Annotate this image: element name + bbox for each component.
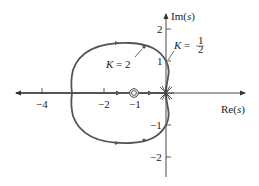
x-tick-label: −2 xyxy=(98,98,110,110)
y-tick-label: 2 xyxy=(157,23,163,35)
triple-pole-marker xyxy=(158,86,174,100)
locus-arrow-axis-1 xyxy=(148,91,153,96)
k-half-leader-line xyxy=(168,51,174,60)
locus-arrow-upper-2 xyxy=(115,41,119,45)
locus-arrow-lower-1 xyxy=(142,138,145,141)
k-half-denominator: 2 xyxy=(198,43,204,55)
x-tick-label: −4 xyxy=(36,98,48,110)
k-half-annotation: K = xyxy=(173,39,190,51)
x-axis-label: Re(s) xyxy=(221,103,245,116)
x-tick-label: −1 xyxy=(129,98,141,110)
locus-arrow-upper-1 xyxy=(142,45,145,48)
double-zero-marker xyxy=(130,89,139,98)
y-tick-label: 1 xyxy=(157,55,163,67)
locus-arrow-axis-2 xyxy=(116,91,121,96)
k2-annotation: K = 2 xyxy=(105,58,131,70)
k2-leader-line xyxy=(135,49,142,57)
y-tick-label: −1 xyxy=(150,119,162,131)
y-tick-label: −2 xyxy=(150,151,162,163)
y-axis-label: Im(s) xyxy=(171,10,195,23)
root-locus-plot: −4−2−1 21−1−2 Im(s) Re(s) K = 2 K = xyxy=(0,0,259,186)
locus-arrow-lower-2 xyxy=(115,141,119,145)
